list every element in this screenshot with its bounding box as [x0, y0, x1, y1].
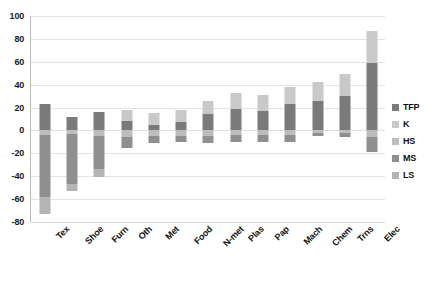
bar-segment-tfp [285, 104, 296, 130]
bar-met [140, 16, 167, 222]
y-tick-label: -40 [12, 171, 24, 181]
x-tick-label-food: Food [192, 224, 214, 246]
y-tick-label: 80 [14, 34, 24, 44]
y-tick-label: -20 [12, 148, 24, 158]
bar-segment-tfp [94, 112, 105, 130]
bar-segment-k [121, 110, 132, 121]
bar-segment-k [340, 74, 351, 96]
legend-label: LS [403, 171, 414, 180]
bar-segment-tfp [66, 117, 77, 131]
y-axis: 100806040200-20-40-60-80 [0, 16, 28, 222]
bar-segment-k [230, 93, 241, 109]
y-tick-label: 0 [19, 125, 24, 135]
bar-segment-ms [340, 133, 351, 138]
bar-segment-tfp [176, 122, 187, 130]
bar-segment-ms [230, 135, 241, 142]
bar-segment-ms [285, 135, 296, 142]
x-tick-label-shoe: Shoe [83, 224, 105, 246]
bar-tex [31, 16, 58, 222]
bar-segment-k [148, 113, 159, 124]
bar-segment-ls [94, 169, 105, 177]
bar-trns [331, 16, 358, 222]
x-tick-label-tex: Tex [54, 224, 71, 241]
chart-legend: TFPKHSMSLS [392, 99, 434, 184]
legend-label: K [403, 120, 409, 129]
x-tick-label-oth: Oth [136, 224, 154, 242]
x-tick-label-furn: Furn [110, 224, 131, 245]
bar-segment-ls [66, 184, 77, 191]
bar-oth [113, 16, 140, 222]
x-tick-label-elec: Elec [383, 224, 403, 244]
bar-segment-k [312, 82, 323, 100]
bar-segment-ls [39, 197, 50, 214]
bar-segment-ms [94, 136, 105, 169]
legend-item-k[interactable]: K [392, 116, 434, 133]
stacked-bar-chart: 100806040200-20-40-60-80 TexShoeFurnOthM… [0, 0, 435, 285]
legend-label: HS [403, 137, 415, 146]
bar-segment-ms [203, 136, 214, 143]
y-tick-label: 40 [14, 80, 24, 90]
bar-segment-ms [258, 135, 269, 142]
bar-segment-ms [367, 137, 378, 152]
y-tick-label: -80 [12, 217, 24, 227]
legend-item-tfp[interactable]: TFP [392, 99, 434, 116]
bar-segment-k [285, 87, 296, 104]
bar-segment-ms [176, 136, 187, 142]
bar-segment-tfp [367, 63, 378, 131]
bar-chem [304, 16, 331, 222]
bar-segment-ms [66, 134, 77, 184]
legend-label: MS [403, 154, 416, 163]
legend-swatch-hs-icon [392, 138, 399, 145]
y-tick-label: 20 [14, 103, 24, 113]
x-tick-label-plas: Plas [246, 224, 266, 244]
bar-segment-hs [121, 130, 132, 137]
y-tick-label: 60 [14, 57, 24, 67]
bar-segment-k [176, 110, 187, 123]
bar-segment-tfp [39, 104, 50, 130]
bar-n-met [195, 16, 222, 222]
bar-segment-tfp [258, 111, 269, 130]
bar-elec [359, 16, 386, 222]
x-tick-label-trns: Trns [355, 224, 375, 244]
legend-swatch-ms-icon [392, 155, 399, 162]
bar-pap [249, 16, 276, 222]
bar-segment-tfp [340, 96, 351, 130]
bar-plas [222, 16, 249, 222]
bar-food [168, 16, 195, 222]
x-tick-label-pap: Pap [273, 224, 291, 242]
bar-segment-k [367, 31, 378, 63]
gridline--80 [31, 222, 385, 223]
x-tick-label-mach: Mach [302, 224, 325, 247]
bar-segment-hs [367, 130, 378, 137]
bar-segment-tfp [121, 121, 132, 130]
y-tick-label: 100 [10, 11, 24, 21]
legend-swatch-ls-icon [392, 172, 399, 179]
bar-segment-k [258, 95, 269, 111]
x-tick-label-n-met: N-met [221, 224, 245, 248]
bar-segment-ms [312, 133, 323, 136]
plot-area [30, 16, 385, 222]
y-tick-label: -60 [12, 194, 24, 204]
bar-segment-tfp [230, 109, 241, 131]
bar-segment-k [203, 101, 214, 115]
x-axis: TexShoeFurnOthMetFoodN-metPlasPapMachChe… [30, 224, 385, 282]
bar-segment-tfp [312, 101, 323, 131]
bar-furn [86, 16, 113, 222]
bar-segment-ms [39, 135, 50, 197]
bar-mach [277, 16, 304, 222]
legend-item-ms[interactable]: MS [392, 150, 434, 167]
legend-swatch-k-icon [392, 121, 399, 128]
bar-segment-tfp [203, 114, 214, 130]
legend-label: TFP [403, 103, 419, 112]
x-tick-label-met: Met [163, 224, 181, 242]
bar-segment-ms [148, 136, 159, 143]
legend-item-hs[interactable]: HS [392, 133, 434, 150]
x-tick-label-chem: Chem [330, 224, 354, 248]
bar-shoe [58, 16, 85, 222]
bar-segment-ms [121, 137, 132, 147]
bars-layer [31, 16, 385, 222]
legend-item-ls[interactable]: LS [392, 167, 434, 184]
legend-swatch-tfp-icon [392, 104, 399, 111]
